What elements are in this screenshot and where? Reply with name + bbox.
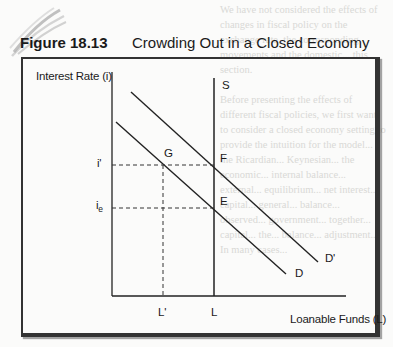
x-axis-label: Loanable Funds (L) <box>290 313 386 325</box>
tick-i-e: ie <box>96 199 103 214</box>
demand-prime-label: D' <box>325 252 335 264</box>
tick-l: L <box>211 306 217 318</box>
point-g-label: G <box>164 147 173 159</box>
demand-curve-d-prime <box>131 92 318 262</box>
point-e-label: E <box>220 195 227 207</box>
supply-label: S <box>222 79 229 91</box>
tick-i-e-sub: e <box>98 204 103 214</box>
chart-area <box>0 0 393 347</box>
tick-l-prime: L' <box>158 306 166 318</box>
demand-label: D <box>295 267 303 279</box>
y-axis-label: Interest Rate (i) <box>36 70 112 82</box>
point-f-label: F <box>220 152 227 164</box>
demand-curve-d <box>116 122 286 274</box>
tick-i-prime: i' <box>97 157 101 169</box>
